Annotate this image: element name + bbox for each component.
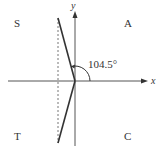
x-axis-arrow-icon (141, 79, 148, 84)
angle-label: 104.5° (88, 59, 117, 70)
quadrant-label-s: S (14, 18, 20, 29)
quadrant-label-a: A (124, 18, 132, 29)
y-axis-label: y (71, 1, 75, 11)
cast-diagram: y x S A T C 104.5° (0, 0, 165, 154)
ray-second-quadrant (58, 18, 75, 81)
y-axis-arrow-icon (73, 11, 78, 18)
quadrant-label-c: C (124, 131, 131, 142)
x-axis-label: x (151, 76, 155, 86)
quadrant-label-t: T (14, 131, 21, 142)
ray-third-quadrant (58, 81, 75, 143)
diagram-canvas (0, 0, 165, 154)
